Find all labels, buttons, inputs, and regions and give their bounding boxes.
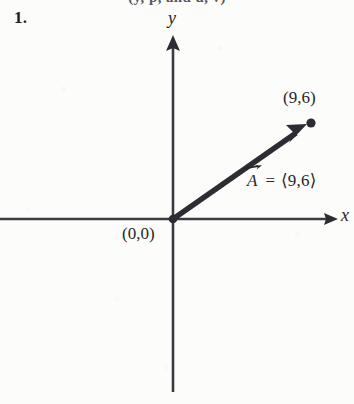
figure-page: (y, p, and u, v) 1. y x (9,6) (0,0) A = … [0, 0, 354, 404]
vector-components: ⟨9,6⟩ [281, 170, 317, 191]
vector-expression: A = ⟨9,6⟩ [245, 170, 317, 191]
vector-overarrow-icon [242, 164, 262, 172]
equals-sign: = [265, 171, 275, 191]
x-axis-arrowhead [324, 213, 338, 225]
tip-point-dot [306, 118, 315, 127]
vector-symbol-letter: A [247, 171, 257, 190]
y-axis-label: y [168, 8, 176, 29]
x-axis-label: x [341, 205, 349, 226]
origin-point-label: (0,0) [122, 224, 155, 244]
origin-point-dot [169, 215, 178, 224]
vector-symbol: A [245, 171, 259, 191]
coordinate-diagram [0, 0, 354, 404]
tip-point-label: (9,6) [283, 88, 316, 108]
